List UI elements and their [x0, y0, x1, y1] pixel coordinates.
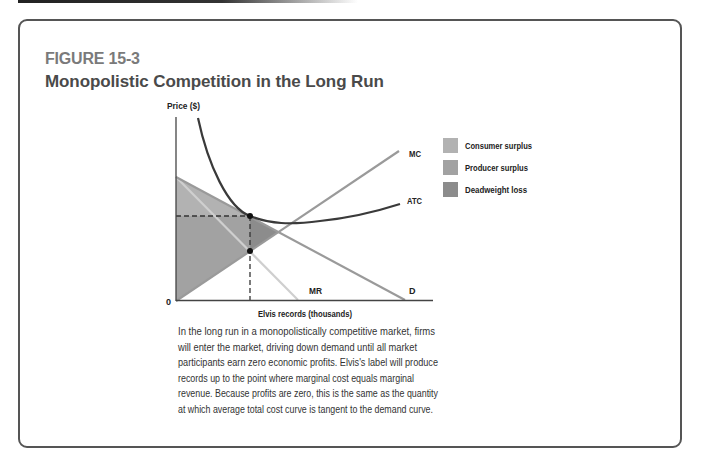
- mr-label: MR: [309, 286, 322, 296]
- legend: Consumer surplus Producer surplus Deadwe…: [443, 138, 532, 197]
- caption-line-3: participants earn zero economic profits.…: [178, 356, 438, 368]
- x-axis-label: Elvis records (thousands): [258, 309, 352, 319]
- y-axis-label: Price ($): [167, 101, 200, 111]
- figure-caption: In the long run in a monopolistically co…: [177, 325, 438, 415]
- mc-label: MC: [409, 149, 421, 159]
- chart: Price ($) 0 Elvis records (thousands) MC…: [0, 0, 701, 468]
- caption-line-1: In the long run in a monopolistically co…: [178, 325, 435, 337]
- tangency-point: [247, 213, 253, 219]
- d-label: D: [409, 286, 416, 296]
- caption-line-2: will enter the market, driving down dema…: [177, 341, 417, 353]
- mc-mr-intersection-point: [247, 248, 253, 254]
- legend-swatch-consumer-surplus: [443, 138, 458, 153]
- legend-swatch-deadweight-loss: [443, 182, 458, 197]
- legend-label-deadweight-loss: Deadweight loss: [465, 185, 527, 195]
- caption-line-4: records up to the point where marginal c…: [178, 372, 414, 384]
- caption-line-6: at which average total cost curve is tan…: [178, 403, 433, 415]
- atc-label: ATC: [407, 196, 422, 206]
- origin-label: 0: [166, 297, 171, 307]
- caption-line-5: revenue. Because profits are zero, this …: [178, 387, 438, 399]
- legend-swatch-producer-surplus: [443, 160, 458, 175]
- legend-label-producer-surplus: Producer surplus: [465, 163, 528, 173]
- legend-label-consumer-surplus: Consumer surplus: [465, 141, 532, 151]
